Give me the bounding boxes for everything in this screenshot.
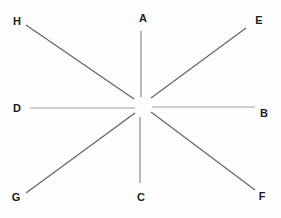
ray-line-h [26,25,134,99]
ray-label-h: H [13,16,21,27]
ray-label-c: C [137,192,145,203]
ray-label-a: A [139,13,147,24]
ray-label-g: G [12,192,21,203]
ray-line-e [151,28,246,98]
ray-label-d: D [13,103,21,114]
ray-label-e: E [255,15,262,26]
rays-canvas [0,0,281,218]
ray-label-f: F [259,191,266,202]
ray-label-b: B [260,108,268,119]
ray-line-f [151,112,255,190]
radial-diagram: A E B F C G D H [0,0,281,218]
ray-line-g [26,113,135,193]
